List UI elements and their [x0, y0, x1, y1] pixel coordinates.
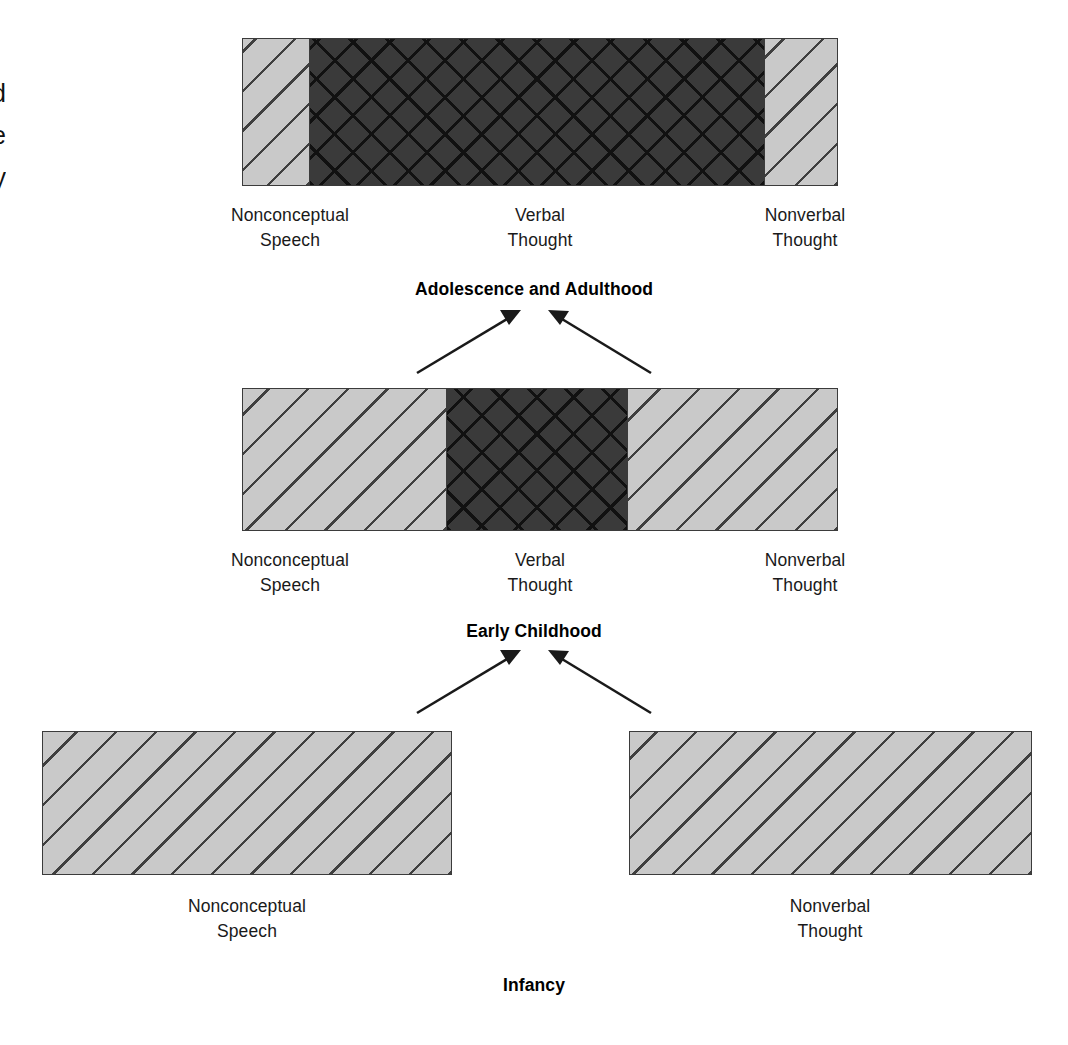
bar-early-childhood	[242, 388, 838, 531]
stage-label-early-childhood: Early Childhood	[384, 620, 684, 642]
left-margin-text-fragment: d e y	[0, 72, 6, 207]
label-nonverbal-thought-infancy: Nonverbal Thought	[730, 894, 930, 944]
arrow-up-right-upper	[548, 310, 651, 373]
label-verbal-thought-early-childhood: Verbal Thought	[440, 548, 640, 598]
segment-nonconceptual-speech-adolescence	[243, 39, 309, 185]
stage-label-adolescence: Adolescence and Adulthood	[334, 278, 734, 300]
segment-nonverbal-thought-infancy	[630, 732, 1031, 874]
segment-nonverbal-thought-adolescence	[764, 39, 837, 185]
bar-adolescence	[242, 38, 838, 186]
label-verbal-thought-adolescence: Verbal Thought	[440, 203, 640, 253]
arrow-up-right-lower	[548, 650, 651, 713]
label-nonconceptual-speech-early-childhood: Nonconceptual Speech	[190, 548, 390, 598]
stage-label-infancy: Infancy	[434, 974, 634, 996]
segment-nonconceptual-speech-early-childhood	[243, 389, 446, 530]
segment-verbal-thought-adolescence	[309, 39, 764, 185]
arrow-up-left-upper	[417, 310, 521, 373]
segment-nonconceptual-speech-infancy	[43, 732, 451, 874]
label-nonconceptual-speech-adolescence: Nonconceptual Speech	[190, 203, 390, 253]
label-nonverbal-thought-adolescence: Nonverbal Thought	[705, 203, 905, 253]
label-nonverbal-thought-early-childhood: Nonverbal Thought	[705, 548, 905, 598]
segment-nonverbal-thought-early-childhood	[627, 389, 837, 530]
figure-canvas: d e y Nonconceptual Speech Verbal Though…	[0, 0, 1068, 1045]
label-nonconceptual-speech-infancy: Nonconceptual Speech	[147, 894, 347, 944]
segment-verbal-thought-early-childhood	[446, 389, 627, 530]
box-nonconceptual-speech-infancy	[42, 731, 452, 875]
arrow-up-left-lower	[417, 650, 521, 713]
box-nonverbal-thought-infancy	[629, 731, 1032, 875]
